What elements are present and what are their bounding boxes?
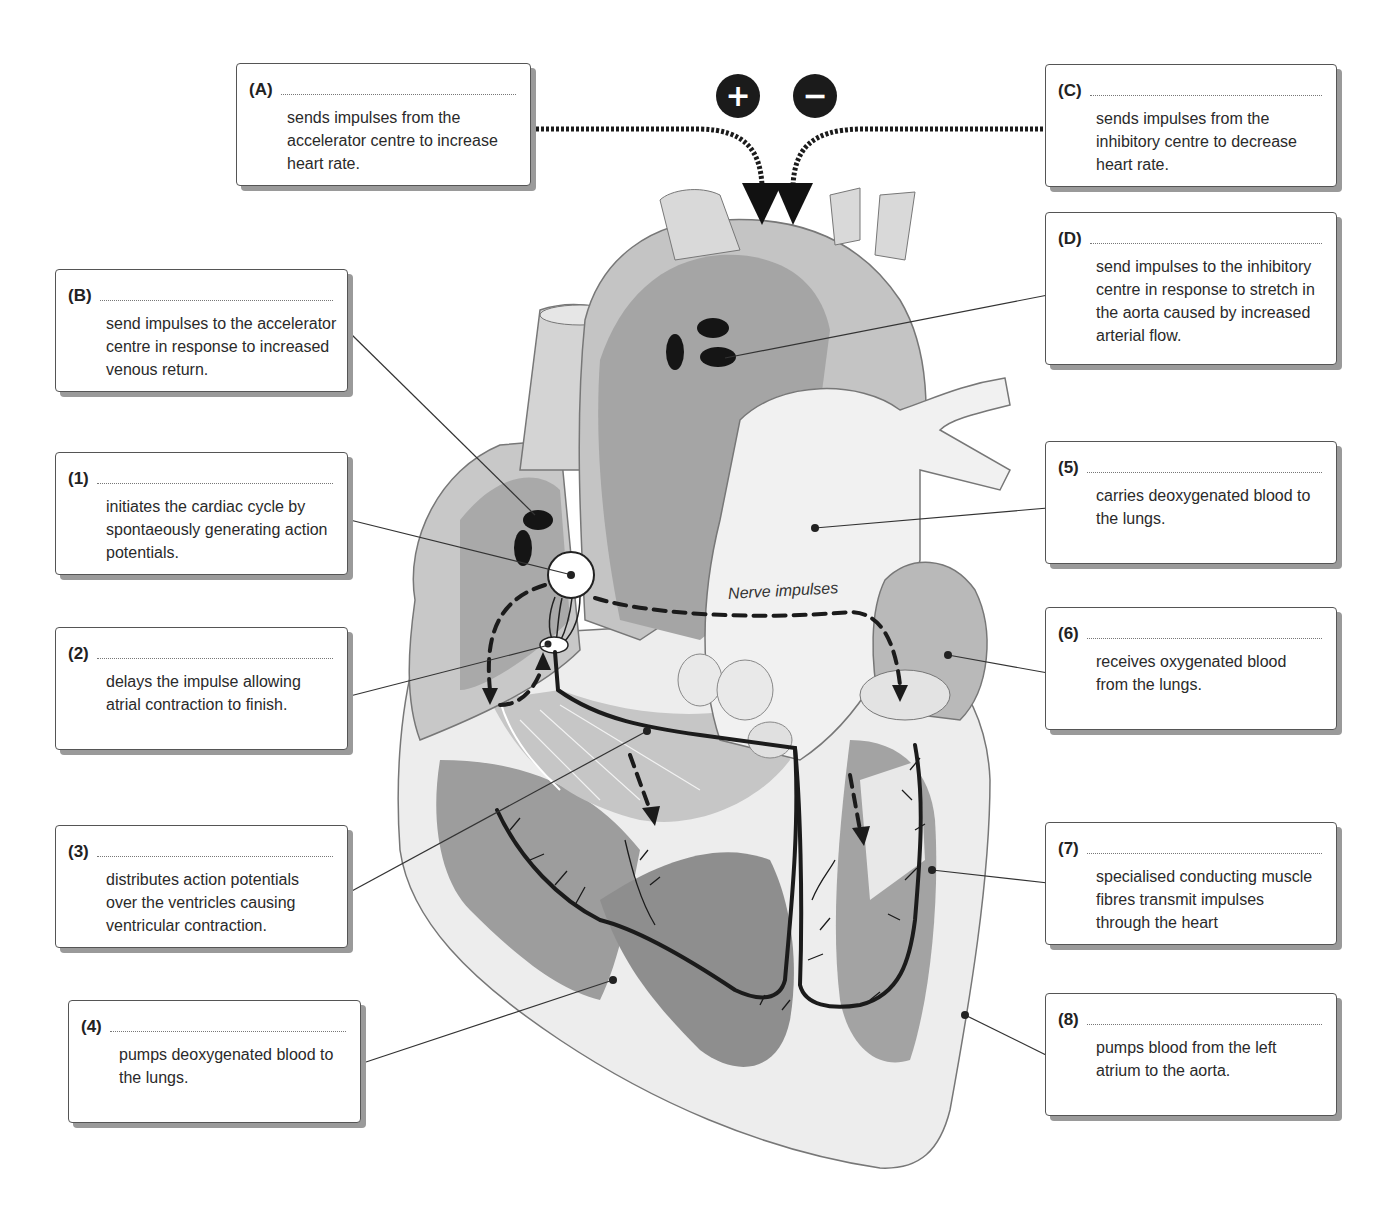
label-description: sends impulses from the accelerator cent… bbox=[287, 106, 516, 175]
carotid-artery bbox=[830, 188, 860, 245]
label-description: pumps blood from the left atrium to the … bbox=[1096, 1036, 1322, 1082]
label-description: distributes action potentials over the v… bbox=[106, 868, 333, 937]
label-key: (1) bbox=[68, 469, 89, 489]
label-box-5: (5) carries deoxygenated blood to the lu… bbox=[1045, 441, 1337, 564]
answer-blank[interactable] bbox=[1087, 1024, 1322, 1025]
answer-blank[interactable] bbox=[97, 658, 333, 659]
label-box-2: (2) delays the impulse allowing atrial c… bbox=[55, 627, 348, 750]
label-description: receives oxygenated blood from the lungs… bbox=[1096, 650, 1322, 696]
label-box-4: (4) pumps deoxygenated blood to the lung… bbox=[68, 1000, 361, 1123]
label-description: specialised conducting muscle fibres tra… bbox=[1096, 865, 1322, 934]
label-box-a: (A) sends impulses from the accelerator … bbox=[236, 63, 531, 186]
brachiocephalic-artery bbox=[660, 190, 740, 260]
label-key: (3) bbox=[68, 842, 89, 862]
label-key: (B) bbox=[68, 286, 92, 306]
label-key: (C) bbox=[1058, 81, 1082, 101]
label-key: (7) bbox=[1058, 839, 1079, 859]
label-key: (8) bbox=[1058, 1010, 1079, 1030]
plus-icon: + bbox=[716, 74, 760, 118]
subclavian-artery bbox=[875, 192, 915, 260]
accelerator-nerve bbox=[536, 129, 762, 185]
aortic-receptor-1 bbox=[697, 318, 729, 338]
venous-receptor-2 bbox=[514, 530, 532, 566]
label-box-7: (7) specialised conducting muscle fibres… bbox=[1045, 822, 1337, 945]
answer-blank[interactable] bbox=[110, 1031, 346, 1032]
minus-icon: − bbox=[793, 74, 837, 118]
heart-conduction-diagram: + − Nerve impulses (A) sends impulses fr… bbox=[0, 0, 1394, 1217]
answer-blank[interactable] bbox=[1087, 472, 1322, 473]
answer-blank[interactable] bbox=[1087, 638, 1322, 639]
answer-blank[interactable] bbox=[1090, 95, 1322, 96]
label-description: carries deoxygenated blood to the lungs. bbox=[1096, 484, 1322, 530]
answer-blank[interactable] bbox=[100, 300, 333, 301]
label-description: send impulses to the inhibitory centre i… bbox=[1096, 255, 1328, 347]
answer-blank[interactable] bbox=[97, 483, 333, 484]
venous-receptor-1 bbox=[523, 510, 553, 530]
label-box-d: (D) send impulses to the inhibitory cent… bbox=[1045, 212, 1337, 365]
label-box-1: (1) initiates the cardiac cycle by spont… bbox=[55, 452, 348, 575]
answer-blank[interactable] bbox=[281, 94, 516, 95]
label-description: initiates the cardiac cycle by spontaeou… bbox=[106, 495, 333, 564]
label-box-8: (8) pumps blood from the left atrium to … bbox=[1045, 993, 1337, 1116]
label-description: delays the impulse allowing atrial contr… bbox=[106, 670, 333, 716]
aortic-receptor-3 bbox=[666, 334, 684, 370]
answer-blank[interactable] bbox=[1090, 243, 1322, 244]
answer-blank[interactable] bbox=[97, 856, 333, 857]
inhibitory-nerve bbox=[793, 129, 1043, 185]
label-description: sends impulses from the inhibitory centr… bbox=[1096, 107, 1322, 176]
label-box-6: (6) receives oxygenated blood from the l… bbox=[1045, 607, 1337, 730]
answer-blank[interactable] bbox=[1087, 853, 1322, 854]
arrow-down-icon bbox=[775, 183, 813, 225]
label-key: (5) bbox=[1058, 458, 1079, 478]
label-key: (6) bbox=[1058, 624, 1079, 644]
label-key: (4) bbox=[81, 1017, 102, 1037]
label-key: (D) bbox=[1058, 229, 1082, 249]
label-description: send impulses to the accelerator centre … bbox=[106, 312, 341, 381]
label-box-b: (B) send impulses to the accelerator cen… bbox=[55, 269, 348, 392]
label-key: (A) bbox=[249, 80, 273, 100]
label-box-3: (3) distributes action potentials over t… bbox=[55, 825, 348, 948]
label-box-c: (C) sends impulses from the inhibitory c… bbox=[1045, 64, 1337, 187]
label-description: pumps deoxygenated blood to the lungs. bbox=[119, 1043, 346, 1089]
label-key: (2) bbox=[68, 644, 89, 664]
arrow-down-icon bbox=[742, 183, 782, 225]
